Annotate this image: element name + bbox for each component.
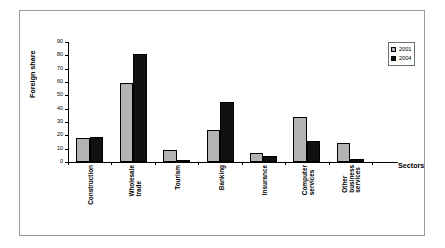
bar-2004-2 — [133, 54, 147, 162]
bar-2001-7 — [337, 143, 351, 162]
bar-2004-3 — [177, 160, 191, 162]
x-axis-tick-mark — [329, 162, 330, 165]
y-axis-tick-mark — [65, 122, 68, 123]
y-axis-tick-label: 10 — [57, 146, 63, 151]
bar-2004-7 — [350, 159, 364, 162]
y-axis-tick-mark — [65, 69, 68, 70]
chart-figure: Foreign share 0102030405060708090 Constr… — [0, 0, 445, 248]
bar-2001-6 — [293, 117, 307, 162]
y-axis-tick-mark — [65, 135, 68, 136]
y-axis-tick-label: 70 — [57, 66, 63, 71]
y-axis-tick-label: 50 — [57, 93, 63, 98]
x-axis-line — [68, 162, 373, 163]
y-axis-tick-label: 20 — [57, 133, 63, 138]
legend-item-2004: 2004 — [391, 54, 411, 63]
y-axis-tick-mark — [65, 55, 68, 56]
bar-2004-5 — [263, 156, 277, 162]
bar-2001-4 — [207, 130, 221, 162]
x-axis-tick-mark — [285, 162, 286, 165]
y-axis-title: Foreign share — [28, 18, 40, 98]
x-axis-category-label-1: Construction — [88, 165, 95, 205]
x-axis-tick-mark — [242, 162, 243, 165]
x-axis-category-label-6: Computer services — [302, 165, 315, 195]
y-axis-tick-label: 90 — [57, 39, 63, 44]
legend-swatch-2004 — [391, 56, 396, 61]
y-axis-tick-mark — [65, 95, 68, 96]
legend-label-2004: 2004 — [399, 56, 411, 62]
y-axis-tick-mark — [65, 82, 68, 83]
plot-area: 0102030405060708090 — [68, 42, 372, 162]
bar-2004-4 — [220, 102, 234, 162]
y-axis-tick-label: 80 — [57, 53, 63, 58]
legend-swatch-2001 — [391, 47, 396, 52]
y-axis-tick-mark — [65, 42, 68, 43]
y-axis-tick-label: 60 — [57, 79, 63, 84]
chart-legend: 20012004 — [388, 42, 415, 66]
x-axis-tick-mark — [372, 162, 373, 165]
bar-2001-5 — [250, 153, 264, 162]
x-axis-category-label-4: Banking — [219, 165, 226, 190]
y-axis-tick-label: 0 — [60, 159, 63, 164]
x-axis-category-label-5: Insurance — [262, 165, 269, 195]
legend-item-2001: 2001 — [391, 45, 411, 54]
bar-2001-3 — [163, 150, 177, 162]
x-axis-title: Sectors — [398, 161, 424, 170]
x-axis-tick-mark — [68, 162, 69, 165]
x-axis-category-label-2: Wholesale trade — [129, 165, 142, 197]
x-axis-category-label-7: Other business services — [342, 165, 362, 193]
bar-2004-6 — [307, 141, 321, 162]
x-axis-tick-mark — [155, 162, 156, 165]
x-axis-line-extension — [372, 162, 398, 163]
x-axis-category-label-3: Tourism — [175, 165, 182, 190]
legend-label-2001: 2001 — [399, 47, 411, 53]
bar-2001-1 — [76, 138, 90, 162]
y-axis-tick-label: 40 — [57, 106, 63, 111]
bar-2001-2 — [120, 83, 134, 162]
y-axis-tick-label: 30 — [57, 119, 63, 124]
x-axis-tick-mark — [111, 162, 112, 165]
x-axis-tick-mark — [198, 162, 199, 165]
bar-2004-1 — [90, 137, 104, 162]
y-axis-tick-mark — [65, 109, 68, 110]
y-axis-tick-mark — [65, 149, 68, 150]
y-axis-line — [68, 42, 69, 162]
